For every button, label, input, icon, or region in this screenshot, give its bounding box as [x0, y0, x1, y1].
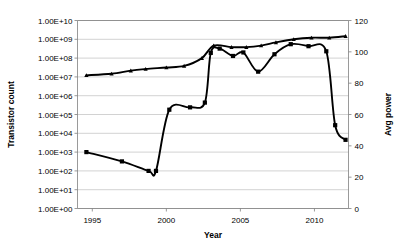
data-point-marker [333, 123, 337, 127]
data-point-marker [289, 42, 293, 46]
y2-tick-label-0: 0 [355, 205, 360, 214]
data-point-marker [272, 52, 276, 56]
y-tick-label-9: 1.00E+09 [38, 35, 73, 44]
series-line-0 [86, 44, 345, 176]
y-tick-label-2: 1.00E+02 [38, 167, 73, 176]
x-tick-label-1: 2000 [157, 216, 175, 225]
y-tick-label-0: 1.00E+00 [38, 205, 73, 214]
y2-tick-label-5: 100 [355, 48, 369, 57]
y-tick-label-4: 1.00E+04 [38, 129, 73, 138]
series-transistor-count [84, 42, 347, 176]
series-avg-power [84, 34, 347, 77]
y2-tick-label-2: 40 [355, 142, 364, 151]
y-axis-ticks: 1.00E+001.00E+011.00E+021.00E+031.00E+04… [38, 17, 77, 214]
data-point-marker [324, 49, 328, 53]
y2-tick-label-1: 20 [355, 173, 364, 182]
y-tick-label-6: 1.00E+06 [38, 92, 73, 101]
y-tick-label-8: 1.00E+08 [38, 54, 73, 63]
data-point-marker [188, 105, 192, 109]
x-tick-label-0: 1995 [83, 216, 101, 225]
y-tick-label-1: 1.00E+01 [38, 186, 73, 195]
y-tick-label-3: 1.00E+03 [38, 148, 73, 157]
x-tick-label-3: 2010 [306, 216, 324, 225]
y2-tick-label-6: 120 [355, 17, 369, 26]
y-axis-title: Transistor count [6, 81, 16, 148]
y2-axis-title: Avg power [383, 92, 393, 136]
y2-tick-label-3: 60 [355, 111, 364, 120]
y-tick-label-7: 1.00E+07 [38, 73, 73, 82]
data-point-marker [218, 47, 222, 51]
data-point-marker [203, 100, 207, 104]
data-point-marker [231, 54, 235, 58]
x-axis-ticks: 1995200020052010 [83, 209, 323, 225]
data-point-marker [256, 70, 260, 74]
data-point-marker [120, 159, 124, 163]
y2-axis-ticks: 020406080100120 [349, 17, 369, 214]
chart-container: 1.00E+001.00E+011.00E+021.00E+031.00E+04… [0, 0, 402, 250]
transistor-count-avg-power-chart: 1.00E+001.00E+011.00E+021.00E+031.00E+04… [0, 0, 402, 250]
data-point-marker [343, 138, 347, 142]
data-point-marker [209, 51, 213, 55]
data-point-marker [167, 108, 171, 112]
data-point-marker [306, 44, 310, 48]
y-tick-label-10: 1.00E+10 [38, 17, 73, 26]
y-tick-label-5: 1.00E+05 [38, 111, 73, 120]
x-tick-label-2: 2005 [231, 216, 249, 225]
y2-tick-label-4: 80 [355, 79, 364, 88]
data-point-marker [154, 169, 158, 173]
data-point-marker [84, 150, 88, 154]
data-point-marker [241, 50, 245, 54]
data-point-marker [146, 169, 150, 173]
series-line-1 [86, 36, 345, 75]
x-axis-title: Year [204, 230, 223, 240]
